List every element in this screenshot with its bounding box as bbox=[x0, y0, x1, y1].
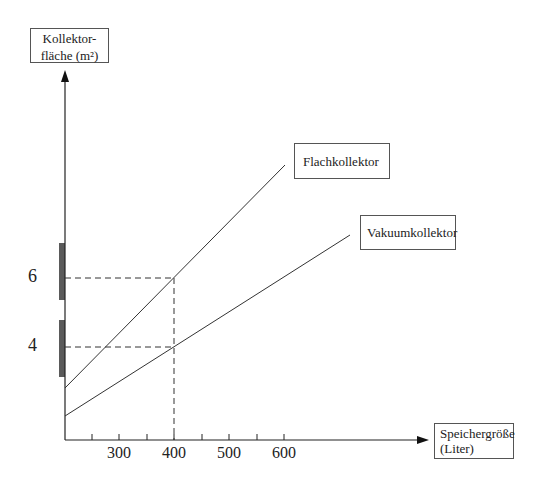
y-axis-arrow-icon bbox=[61, 70, 69, 82]
range-bar-4 bbox=[59, 320, 65, 377]
chart-canvas bbox=[0, 0, 541, 489]
dashed-guides bbox=[65, 278, 174, 440]
x-axis-arrow-icon bbox=[417, 436, 429, 444]
vakuumkollektor-label: Vakuumkollektor bbox=[360, 215, 456, 250]
x-axis-label-line2: (Liter) bbox=[440, 441, 513, 456]
x-axis-label: Speichergröße (Liter) bbox=[434, 423, 514, 459]
x-tick-label-300: 300 bbox=[107, 444, 131, 462]
x-tick-label-600: 600 bbox=[272, 444, 296, 462]
y-axis-label-line2: fläche (m²) bbox=[31, 47, 108, 64]
vakuumkollektor-line bbox=[65, 235, 350, 416]
y-tick-label-6: 6 bbox=[28, 266, 37, 287]
flachkollektor-line bbox=[65, 165, 285, 388]
y-axis-label: Kollektor- fläche (m²) bbox=[30, 28, 109, 63]
x-tick-label-400: 400 bbox=[162, 444, 186, 462]
x-tick-label-500: 500 bbox=[217, 444, 241, 462]
x-ticks bbox=[92, 434, 284, 440]
y-tick-label-4: 4 bbox=[28, 335, 37, 356]
x-axis-label-line1: Speichergröße bbox=[440, 426, 513, 441]
y-axis-label-line1: Kollektor- bbox=[31, 30, 108, 47]
range-bar-6 bbox=[59, 243, 65, 300]
flachkollektor-label: Flachkollektor bbox=[294, 143, 390, 179]
